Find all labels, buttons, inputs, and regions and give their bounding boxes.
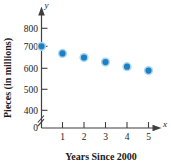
x-tick-label-2: 2 (82, 132, 87, 142)
x-tick-label-4: 4 (125, 132, 130, 142)
scatter-chart: y 800 700 600 500 400 0 x (0, 0, 171, 165)
y-tick-label-0: 0 (33, 123, 38, 133)
data-point (144, 66, 153, 75)
y-tick-label-400: 400 (24, 106, 39, 116)
data-point (79, 53, 88, 62)
data-point (101, 58, 110, 67)
y-axis-title: Pieces (in millions) (2, 38, 14, 118)
y-tick-label-800: 800 (24, 24, 39, 34)
chart-svg: y 800 700 600 500 400 0 x (0, 0, 171, 165)
x-tick-label-3: 3 (103, 132, 108, 142)
y-tick-label-500: 500 (24, 85, 39, 95)
data-point (122, 62, 131, 71)
y-tick-label-600: 600 (24, 64, 39, 74)
x-tick-label-5: 5 (146, 132, 151, 142)
data-point (58, 49, 67, 58)
x-axis-title: Years Since 2000 (65, 151, 137, 162)
data-point (37, 42, 46, 51)
x-tick-label-1: 1 (60, 132, 65, 142)
y-axis-variable-label: y (44, 0, 49, 10)
y-tick-label-700: 700 (24, 42, 39, 52)
x-axis-variable-label: x (162, 119, 167, 129)
